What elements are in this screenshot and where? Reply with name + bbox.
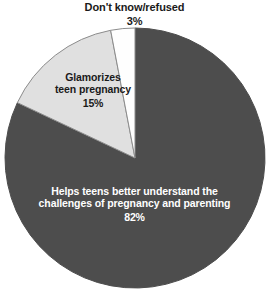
slice-label-text-line2: teen pregnancy	[33, 83, 153, 95]
slice-label-text: Don't know/refused	[0, 1, 269, 14]
slice-label-helps-teens-understand: Helps teens better understand the challe…	[4, 185, 265, 223]
slice-label-percent: 3%	[0, 15, 269, 28]
slice-label-text-line1: Glamorizes	[33, 71, 153, 83]
slice-label-dont-know-refused: Don't know/refused 3%	[0, 1, 269, 28]
slice-label-glamorizes-teen-pregnancy: Glamorizes teen pregnancy 15%	[33, 71, 153, 109]
slice-label-text-line2: challenges of pregnancy and parenting	[4, 197, 265, 209]
pie-chart-canvas	[0, 0, 269, 295]
slice-label-percent: 82%	[4, 211, 265, 223]
pie-chart: Don't know/refused 3% Glamorizes teen pr…	[0, 0, 269, 295]
slice-label-percent: 15%	[33, 97, 153, 109]
pie-slice-group	[5, 28, 265, 288]
slice-label-text-line1: Helps teens better understand the	[4, 185, 265, 197]
